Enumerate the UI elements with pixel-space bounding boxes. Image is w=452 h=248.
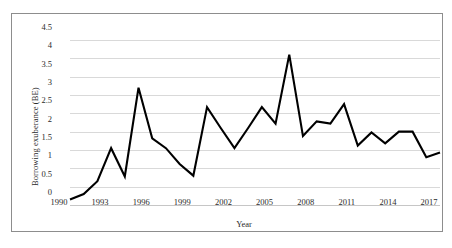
gridline-0 <box>70 205 440 206</box>
x-axis-title: Year <box>59 219 429 229</box>
y-tick-label: 0 <box>48 188 52 197</box>
figure-border: Borrowing exuberance (BE) 00.511.522.533… <box>11 13 443 232</box>
y-tick-label: 3 <box>48 78 52 87</box>
y-tick-label: 0.5 <box>41 170 52 179</box>
y-tick-label: 2 <box>48 115 52 124</box>
y-tick-label: 4 <box>48 41 52 50</box>
y-axis-title: Borrowing exuberance (BE) <box>30 87 40 186</box>
y-tick-label: 1.5 <box>41 133 52 142</box>
y-tick-label: 1 <box>48 151 52 160</box>
y-tick-label: 3.5 <box>41 60 52 69</box>
y-tick-label: 4.5 <box>41 23 52 32</box>
series-line-chart <box>70 40 440 205</box>
chart-figure: Borrowing exuberance (BE) 00.511.522.533… <box>0 0 452 248</box>
plot-area <box>70 40 440 205</box>
series-line-borrowing-exuberance <box>70 55 440 200</box>
y-tick-label: 2.5 <box>41 96 52 105</box>
